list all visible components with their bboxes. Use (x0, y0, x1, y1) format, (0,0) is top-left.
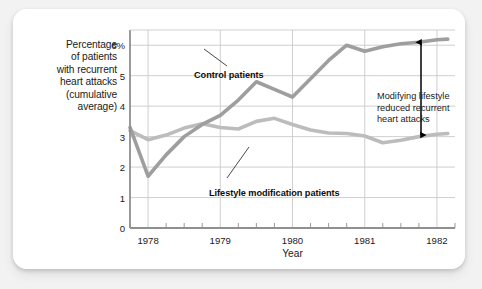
x-tick-label: 1980 (282, 235, 303, 246)
x-tick-label: 1982 (426, 235, 447, 246)
y-tick-label: 6% (111, 40, 125, 51)
x-tick-label: 1979 (210, 235, 231, 246)
callout-leader-lines (204, 49, 249, 178)
y-tick-label: 3 (120, 131, 125, 142)
figure-card: Percentage of patients with recurrent he… (13, 9, 465, 269)
y-tick-label: 1 (120, 192, 125, 203)
y-tick-label: 5 (120, 70, 125, 81)
control-patients-label: Control patients (194, 70, 264, 80)
plot-area: 0123456% 19781979198019811982 (130, 30, 455, 228)
y-tick-label: 0 (120, 223, 125, 234)
line-chart: Percentage of patients with recurrent he… (13, 9, 465, 269)
y-axis-title-line-6: average) (19, 101, 117, 113)
y-axis-title-line-5: (cumulative (19, 89, 117, 101)
y-axis-title: Percentage of patients with recurrent he… (19, 39, 117, 113)
lifestyle-patients-label: Lifestyle modification patients (209, 188, 340, 198)
difference-annotation-text: Modifying lifestyle reduced recurrent he… (377, 91, 450, 126)
x-tick-label: 1981 (354, 235, 375, 246)
y-axis-title-line-4: heart attacks (19, 76, 117, 88)
x-axis-title: Year (130, 248, 455, 259)
control-leader-line (204, 49, 227, 66)
screenshot-root: Percentage of patients with recurrent he… (0, 0, 482, 289)
plot-svg (130, 30, 455, 228)
y-axis-title-line-3: with recurrent (19, 64, 117, 76)
y-tick-label: 2 (120, 162, 125, 173)
y-axis-title-line-2: of patients (19, 51, 117, 63)
lifestyle-leader-line (227, 147, 249, 178)
annotation-line-3: heart attacks (377, 114, 450, 126)
annotation-line-2: reduced recurrent (377, 103, 450, 115)
x-tick-label: 1978 (137, 235, 158, 246)
y-axis-title-line-1: Percentage (19, 39, 117, 51)
annotation-line-1: Modifying lifestyle (377, 91, 450, 103)
y-tick-label: 4 (120, 101, 125, 112)
